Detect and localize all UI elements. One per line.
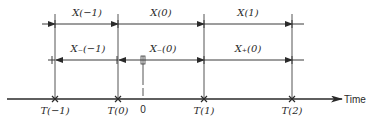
label-x-1: X(1) xyxy=(236,7,258,18)
vertical-guides xyxy=(55,14,292,99)
label-t1: T(1) xyxy=(194,105,215,116)
middle-row-arrows xyxy=(48,56,304,64)
label-t-minus-1: T(−1) xyxy=(40,105,69,116)
label-x-minus-1: X(−1) xyxy=(71,7,102,18)
label-x-minus-minus-1: X₋(−1) xyxy=(70,43,106,54)
label-time-axis: Time xyxy=(344,94,366,105)
label-t2: T(2) xyxy=(282,105,303,116)
label-origin: 0 xyxy=(140,104,146,115)
timing-diagram: X(−1) X(0) X(1) X₋(−1) X₋(0) X₊(0) T(−1)… xyxy=(0,0,373,123)
label-t0: T(0) xyxy=(108,105,129,116)
label-x-0: X(0) xyxy=(149,7,171,18)
label-x-plus-0: X₊(0) xyxy=(234,43,262,54)
top-row-arrows xyxy=(42,20,304,28)
label-x-minus-0: X₋(0) xyxy=(149,43,177,54)
